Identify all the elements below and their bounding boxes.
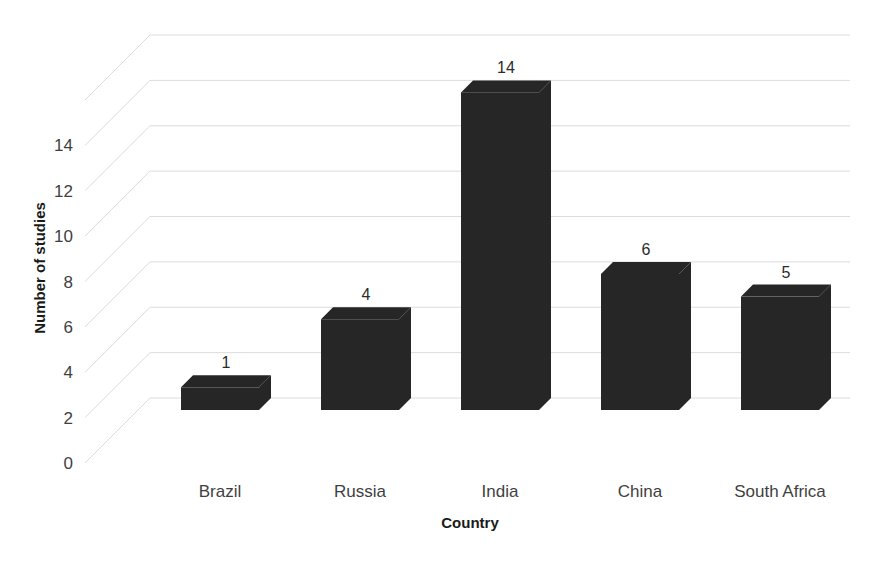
category-label-russia: Russia	[334, 482, 387, 501]
y-tick-label-4: 4	[64, 363, 73, 382]
y-tick-label-8: 8	[64, 273, 73, 292]
y-tick-label-0: 0	[64, 454, 73, 473]
bar-side-face	[679, 262, 691, 410]
y-tick-label-14: 14	[54, 136, 73, 155]
bar-top-face	[181, 375, 271, 387]
bar-china	[601, 262, 691, 410]
bar-top-face	[461, 80, 551, 92]
bar-russia	[321, 307, 411, 410]
bar-side-face	[819, 285, 831, 410]
chart-background	[0, 0, 883, 563]
bar-top-face	[321, 307, 411, 319]
bar-side-face	[399, 307, 411, 410]
bar-top-face	[741, 285, 831, 297]
category-label-india: India	[482, 482, 519, 501]
bar-india	[461, 80, 551, 410]
bar-top-face	[601, 262, 691, 274]
bar-brazil	[181, 375, 271, 410]
y-tick-label-10: 10	[54, 227, 73, 246]
y-tick-label-12: 12	[54, 182, 73, 201]
bar-south-africa	[741, 285, 831, 410]
chart-container: 02468101214 141465 BrazilRussiaIndiaChin…	[0, 0, 883, 563]
bar-front-face	[601, 274, 679, 410]
x-axis-title: Country	[441, 514, 499, 531]
value-label-russia: 4	[362, 286, 371, 303]
y-tick-label-6: 6	[64, 318, 73, 337]
bar-front-face	[321, 319, 399, 410]
y-tick-label-2: 2	[64, 409, 73, 428]
value-label-china: 6	[642, 241, 651, 258]
bar-chart-3d: 02468101214 141465 BrazilRussiaIndiaChin…	[0, 0, 883, 563]
category-label-south-africa: South Africa	[734, 482, 826, 501]
bar-front-face	[741, 297, 819, 410]
category-label-china: China	[618, 482, 663, 501]
y-axis-title: Number of studies	[31, 202, 48, 334]
bar-front-face	[181, 387, 259, 410]
bar-front-face	[461, 92, 539, 410]
value-label-brazil: 1	[222, 354, 231, 371]
value-label-india: 14	[497, 59, 515, 76]
bar-side-face	[539, 80, 551, 410]
value-label-south-africa: 5	[782, 264, 791, 281]
category-label-brazil: Brazil	[199, 482, 242, 501]
